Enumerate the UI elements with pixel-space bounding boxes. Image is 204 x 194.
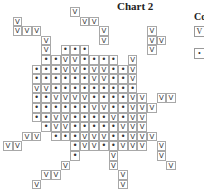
grid-cell-dot: • [99,141,109,151]
grid-cell-check: V [61,113,71,123]
grid-cell-check: V [32,26,42,36]
grid-cell-dot: • [70,74,80,84]
grid-cell-dot: • [41,93,51,103]
grid-cell-dot: • [109,74,119,84]
grid-cell-check: V [157,93,167,103]
grid-cell-check: V [22,132,32,142]
grid-cell-check: V [13,26,23,36]
grid-cell-dot: • [89,113,99,123]
grid-cell-check: V [137,113,147,123]
grid-cell-dot: • [61,74,71,84]
grid-cell-check: V [51,170,61,180]
grid-cell-dot: • [51,74,61,84]
grid-cell-dot: • [118,113,128,123]
grid-cell-dot: • [89,93,99,103]
grid-cell-check: V [166,93,176,103]
symbol-grid: VVVVVVVVVVVVVV•••V••VV••••V•••VV•VV••V••… [0,0,204,194]
grid-cell-check: V [118,122,128,132]
grid-cell-dot: • [61,84,71,94]
grid-cell-check: V [61,122,71,132]
grid-cell-dot: • [80,55,90,65]
grid-cell-check: V [99,36,109,46]
grid-cell-dot: • [51,55,61,65]
grid-cell-check: V [147,45,157,55]
grid-cell-check: V [137,122,147,132]
grid-cell-check: V [137,103,147,113]
grid-cell-dot: • [109,103,119,113]
grid-cell-dot: • [32,65,42,75]
grid-cell-dot: • [70,103,80,113]
grid-cell-check: V [89,17,99,27]
grid-cell-dot: • [32,93,42,103]
grid-cell-dot: • [89,55,99,65]
grid-cell-check: V [99,65,109,75]
grid-cell-dot: • [51,84,61,94]
grid-cell-check: V [109,113,119,123]
grid-cell-dot: • [118,74,128,84]
grid-cell-check: V [32,180,42,190]
grid-cell-check: V [157,151,167,161]
grid-cell-dot: • [99,93,109,103]
grid-cell-dot: • [41,113,51,123]
grid-cell-dot: • [99,122,109,132]
grid-cell-dot: • [118,93,128,103]
grid-cell-dot: • [99,55,109,65]
grid-cell-check: V [3,141,13,151]
grid-cell-dot: • [80,103,90,113]
grid-cell-check: V [41,170,51,180]
grid-cell-dot: • [118,84,128,94]
grid-cell-check: V [137,93,147,103]
grid-cell-check: V [109,151,119,161]
grid-cell-check: V [157,36,167,46]
grid-cell-dot: • [89,122,99,132]
grid-cell-check: V [51,93,61,103]
grid-cell-check: V [89,74,99,84]
grid-cell-dot: • [109,122,119,132]
grid-cell-dot: • [80,45,90,55]
grid-cell-dot: • [80,84,90,94]
grid-cell-check: V [147,132,157,142]
grid-cell-dot: • [128,84,138,94]
grid-cell-dot: • [51,65,61,75]
grid-cell-dot: • [80,65,90,75]
grid-cell-check: V [70,55,80,65]
grid-cell-dot: • [61,45,71,55]
grid-cell-dot: • [118,65,128,75]
grid-cell-dot: • [118,103,128,113]
grid-cell-check: V [118,141,128,151]
grid-cell-check: V [13,17,23,27]
grid-cell-check: V [166,161,176,171]
grid-cell-check: V [80,17,90,27]
grid-cell-dot: • [41,55,51,65]
grid-cell-check: V [89,65,99,75]
grid-cell-dot: • [32,103,42,113]
grid-cell-check: V [61,93,71,103]
grid-cell-check: V [128,74,138,84]
grid-cell-dot: • [51,103,61,113]
grid-cell-check: V [61,161,71,171]
grid-cell-check: V [41,84,51,94]
grid-cell-check: V [99,26,109,36]
grid-cell-check: V [118,170,128,180]
grid-cell-dot: • [41,65,51,75]
grid-cell-check: V [118,180,128,190]
grid-cell-dot: • [61,103,71,113]
grid-cell-dot: • [70,151,80,161]
grid-cell-dot: • [109,93,119,103]
grid-cell-check: V [70,65,80,75]
grid-cell-check: V [128,141,138,151]
grid-cell-check: V [80,132,90,142]
grid-cell-check: V [80,141,90,151]
grid-cell-check: V [13,141,23,151]
grid-cell-dot: • [109,132,119,142]
grid-cell-dot: • [109,65,119,75]
grid-cell-check: V [22,26,32,36]
grid-cell-dot: • [61,132,71,142]
grid-cell-check: V [51,122,61,132]
grid-cell-check: V [32,132,42,142]
grid-cell-check: V [61,55,71,65]
grid-cell-dot: • [109,84,119,94]
grid-cell-check: V [89,141,99,151]
grid-cell-dot: • [70,84,80,94]
grid-cell-check: V [128,122,138,132]
